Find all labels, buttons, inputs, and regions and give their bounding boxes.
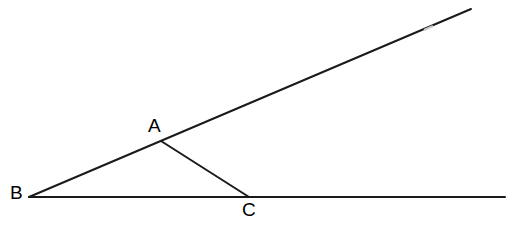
- vertex-label-b: B: [10, 182, 23, 203]
- geometry-canvas: A B C: [0, 0, 511, 226]
- geometry-diagram: A B C: [0, 0, 511, 226]
- vertex-label-c: C: [242, 199, 256, 220]
- diagram-background: [0, 0, 511, 226]
- vertex-label-a: A: [148, 115, 161, 136]
